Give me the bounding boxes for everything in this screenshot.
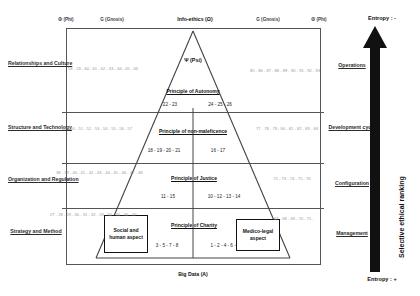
entropy-arrow-label: Selective ethical ranking <box>398 176 405 258</box>
tier-title-justice: Principle of Justice <box>144 175 244 181</box>
tier-numbers-justice-left: 11 - 15 <box>146 194 190 199</box>
tier-numbers-autonomy-right: 24 - 25 - 26 <box>196 102 244 107</box>
upward-arrow-icon <box>362 26 388 274</box>
aspect-box-medico-legal-label: Medico-legal aspect <box>237 228 279 241</box>
tier-numbers-autonomy-left: 22 - 23 <box>150 102 190 107</box>
tier-numbers-justice-right: 10 - 12 - 13 - 14 <box>196 194 252 199</box>
diagram-root: Φ (Phi) G (Gnosis) Info-ethics (Ω) G (Gn… <box>0 0 420 296</box>
apex-label-psi: Ψ (Psi) <box>168 57 218 63</box>
row-label-strategy-and-method: Strategy and Method <box>8 228 64 235</box>
aspect-box-social-human-label: Social and human aspect <box>105 227 147 240</box>
row-label-relationships-and-culture: Relationships and Culture <box>8 60 64 67</box>
row-numbers-relationships-and-culture: 58 - 59 - 60 - 61 - 62 - 63 - 64 - 65 - … <box>68 66 134 71</box>
row-numbers-operations: 85 - 86 - 87 - 88 - 89 - 90 - 91 - 92 - … <box>250 68 316 73</box>
row-numbers-organization-and-regulation: 38 - 39 - 40 - 41 - 42 - 43 - 44 - 45 - … <box>56 170 118 175</box>
row-label-organization-and-regulation: Organization and Regulation <box>8 176 64 183</box>
row-numbers-development-cycle: 77 - 78 - 79 - 80 - 81 - 82 - 83 - 84 <box>256 126 318 131</box>
row-numbers-structure-and-technology: 49 - 50 - 51 - 52 - 53 - 54 - 55 - 56 - … <box>62 126 124 131</box>
aspect-box-social-human: Social and human aspect <box>104 215 148 253</box>
tier-title-charity: Principle of Charity <box>144 222 244 228</box>
tier-numbers-charity-left: 3 - 5 - 7 - 8 <box>144 243 190 248</box>
row-numbers-configuration: 72 - 73 - 74 - 75 - 76 <box>266 176 318 181</box>
row-numbers-strategy-and-method: 27 - 28 - 29 - 30 - 31 - 32 - 33 - 34 - … <box>50 212 108 217</box>
bottom-label-big-data: Big Data (A) <box>155 271 231 277</box>
entropy-label-top: Entropy : - <box>352 15 412 21</box>
aspect-box-medico-legal: Medico-legal aspect <box>236 219 280 251</box>
tier-title-autonomy: Principle of Autonomy <box>138 88 248 94</box>
row-label-structure-and-technology: Structure and Technology <box>8 124 64 131</box>
entropy-label-bottom: Entropy : + <box>352 276 412 282</box>
tier-numbers-non-maleficence-right: 16 - 17 <box>198 148 238 153</box>
tier-numbers-non-maleficence-left: 18 - 19 - 20 - 21 <box>138 148 190 153</box>
tier-title-non-maleficence: Principle of non-maleficence <box>130 128 256 134</box>
row-numbers-management: 67 - 68 - 69 - 70 - 71 - <box>268 216 320 221</box>
